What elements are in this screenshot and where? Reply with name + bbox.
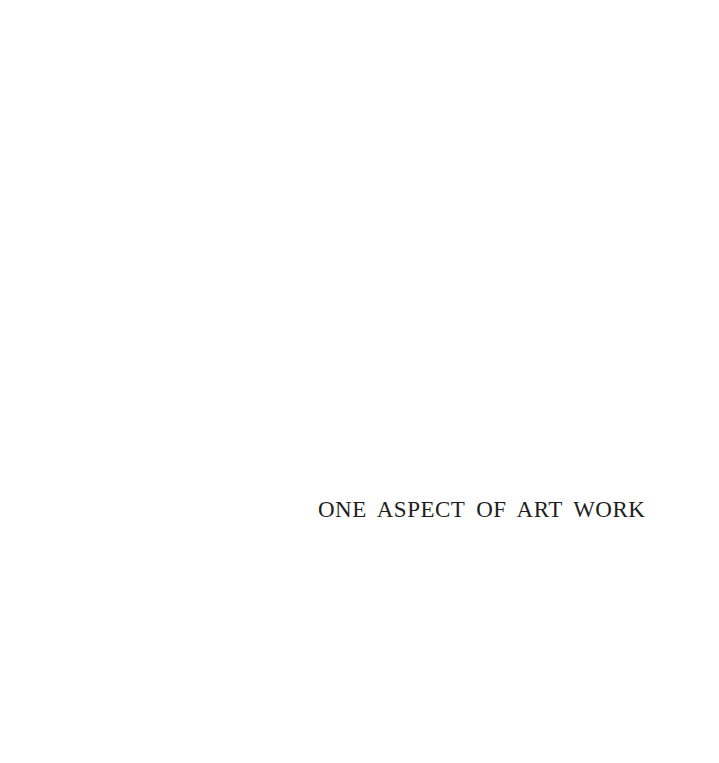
book-page: ONE ASPECT OF ART WORK [0, 0, 719, 763]
page-title: ONE ASPECT OF ART WORK [318, 496, 645, 524]
